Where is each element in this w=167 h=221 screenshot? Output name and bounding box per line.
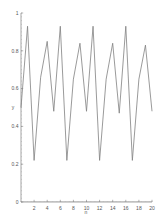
x-tick-label: 16 [123, 205, 129, 211]
y-tick-label: 0.6 [12, 85, 19, 91]
x-tick-label: 2 [33, 205, 36, 211]
x-axis: 2468101214161820 [21, 200, 155, 211]
x-axis-label: n [85, 209, 88, 215]
y-axis-label: y [12, 104, 15, 110]
y-tick-label: 0.2 [12, 161, 19, 167]
line-chart: 00.20.40.60.81 2468101214161820 n y [0, 0, 167, 221]
x-tick-label: 8 [72, 205, 75, 211]
x-tick-label: 12 [97, 205, 103, 211]
y-tick-label: 0.4 [12, 123, 19, 129]
x-tick-label: 20 [149, 205, 155, 211]
x-tick-label: 4 [46, 205, 49, 211]
x-tick-label: 14 [110, 205, 116, 211]
x-tick-label: 18 [136, 205, 142, 211]
x-tick-label: 6 [59, 205, 62, 211]
y-tick-label: 0.8 [12, 48, 19, 54]
data-line [21, 26, 152, 160]
y-tick-label: 1 [16, 10, 19, 16]
y-tick-label: 0 [16, 199, 19, 205]
